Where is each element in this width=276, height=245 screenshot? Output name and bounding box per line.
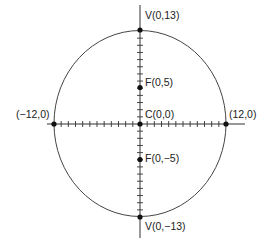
vertex-bottom-label: V(0,−13) (145, 220, 186, 232)
focus-top-point (137, 85, 142, 90)
co-vertex-left-label: (−12,0) (16, 108, 50, 120)
vertex-top-point (137, 27, 142, 32)
vertex-bottom-point (137, 214, 142, 219)
co-vertex-left-point (51, 121, 56, 126)
focus-bottom-point (137, 157, 142, 162)
focus-bottom-label: F(0,−5) (145, 152, 179, 164)
co-vertex-right-label: (12,0) (229, 108, 256, 120)
co-vertex-right-point (223, 121, 228, 126)
vertex-top-label: V(0,13) (145, 9, 179, 21)
focus-top-label: F(0,5) (145, 76, 173, 88)
center-label: C(0,0) (145, 108, 174, 120)
center-point (137, 121, 142, 126)
ellipse-diagram: V(0,13) F(0,5) C(0,0) F(0,−5) V(0,−13) (… (0, 0, 276, 245)
